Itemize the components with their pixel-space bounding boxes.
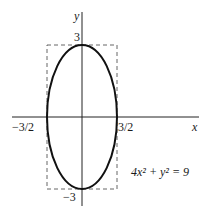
y-axis-label: y <box>73 9 80 23</box>
x-axis-label: x <box>191 120 198 134</box>
tick-x-pos: 3/2 <box>118 120 133 134</box>
ellipse-diagram: y x 3 −3 −3/2 3/2 4x² + y² = 9 <box>0 0 209 213</box>
tick-x-neg: −3/2 <box>12 120 34 134</box>
tick-y-neg: −3 <box>63 190 76 204</box>
equation-label: 4x² + y² = 9 <box>131 165 189 179</box>
tick-y-pos: 3 <box>74 30 80 44</box>
